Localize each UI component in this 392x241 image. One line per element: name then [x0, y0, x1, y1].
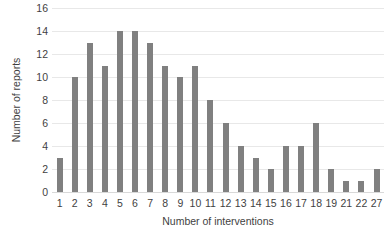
x-axis-tick-label: 22 [354, 196, 369, 210]
y-axis-tick-label: 16 [22, 3, 48, 13]
x-axis-tick-label: 27 [369, 196, 384, 210]
bar[interactable] [177, 77, 183, 192]
x-axis-tick-label: 11 [203, 196, 218, 210]
bar[interactable] [192, 66, 198, 193]
bar[interactable] [253, 158, 259, 193]
x-axis-tick-label: 15 [263, 196, 278, 210]
y-axis-tick-label: 0 [22, 187, 48, 197]
x-axis-tick-labels: 12345678910111213141516171819212227 [52, 196, 384, 210]
x-axis-tick-label: 1 [52, 196, 67, 210]
x-axis-title: Number of interventions [52, 214, 384, 228]
y-axis-tick-label: 8 [22, 95, 48, 105]
bar-slot [127, 8, 142, 192]
bar[interactable] [132, 31, 138, 192]
bar-slot [143, 8, 158, 192]
x-axis-tick-label: 14 [248, 196, 263, 210]
bar-slot [354, 8, 369, 192]
x-axis-tick-label: 9 [173, 196, 188, 210]
x-axis-tick-label: 8 [158, 196, 173, 210]
x-axis-tick-label: 19 [324, 196, 339, 210]
bar[interactable] [283, 146, 289, 192]
y-axis-tick-label: 14 [22, 26, 48, 36]
x-axis-tick-label: 16 [278, 196, 293, 210]
plot-area [52, 8, 384, 192]
bar[interactable] [147, 43, 153, 193]
x-axis-tick-label: 4 [97, 196, 112, 210]
bar[interactable] [343, 181, 349, 193]
y-axis-tick-label: 2 [22, 164, 48, 174]
bar-slot [263, 8, 278, 192]
bar[interactable] [162, 66, 168, 193]
x-axis-tick-label: 5 [112, 196, 127, 210]
bar-slot [218, 8, 233, 192]
bar[interactable] [238, 146, 244, 192]
x-axis-tick-label: 7 [143, 196, 158, 210]
bar[interactable] [268, 169, 274, 192]
bar[interactable] [57, 158, 63, 193]
bar[interactable] [207, 100, 213, 192]
bar-slot [339, 8, 354, 192]
bar-slot [233, 8, 248, 192]
bar[interactable] [358, 181, 364, 193]
bar[interactable] [72, 77, 78, 192]
bar-slot [294, 8, 309, 192]
bar-slot [82, 8, 97, 192]
bar-slot [112, 8, 127, 192]
x-axis-tick-label: 12 [218, 196, 233, 210]
bar[interactable] [223, 123, 229, 192]
bar-slot [309, 8, 324, 192]
bar-slot [369, 8, 384, 192]
bar-series [52, 8, 384, 192]
bar[interactable] [102, 66, 108, 193]
x-axis-tick-label: 18 [309, 196, 324, 210]
bar-slot [52, 8, 67, 192]
bar[interactable] [117, 31, 123, 192]
bar-slot [324, 8, 339, 192]
y-axis-tick-label: 12 [22, 49, 48, 59]
bar-slot [97, 8, 112, 192]
x-axis-tick-label: 13 [233, 196, 248, 210]
bar[interactable] [328, 169, 334, 192]
x-axis-tick-label: 6 [127, 196, 142, 210]
y-axis-tick-label: 4 [22, 141, 48, 151]
bar[interactable] [87, 43, 93, 193]
bar[interactable] [313, 123, 319, 192]
bar-chart: Number of reports 0246810121416 12345678… [0, 0, 392, 241]
bar-slot [188, 8, 203, 192]
y-axis-tick-label: 6 [22, 118, 48, 128]
x-axis-tick-label: 2 [67, 196, 82, 210]
y-axis-tick-labels: 0246810121416 [22, 8, 48, 200]
y-axis-tick-label: 10 [22, 72, 48, 82]
bar[interactable] [298, 146, 304, 192]
bar-slot [173, 8, 188, 192]
x-axis-tick-label: 3 [82, 196, 97, 210]
gridline [52, 192, 384, 193]
x-axis-tick-label: 21 [339, 196, 354, 210]
bar-slot [67, 8, 82, 192]
x-axis-tick-label: 10 [188, 196, 203, 210]
bar-slot [203, 8, 218, 192]
bar-slot [278, 8, 293, 192]
bar-slot [248, 8, 263, 192]
bar-slot [158, 8, 173, 192]
x-axis-tick-label: 17 [294, 196, 309, 210]
bar[interactable] [374, 169, 380, 192]
